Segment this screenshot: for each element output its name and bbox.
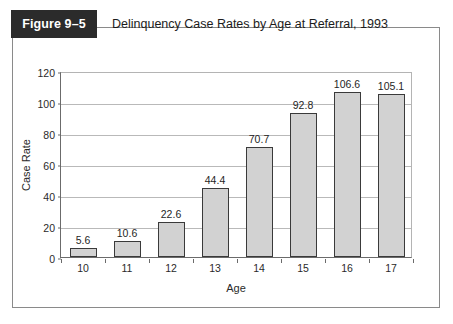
bar: 5.610 xyxy=(70,248,97,257)
chart-plot-area: 0204060801001205.61010.61122.61244.41370… xyxy=(60,72,412,258)
y-axis-tick-mark xyxy=(58,197,62,198)
bar-value-label: 70.7 xyxy=(249,133,269,145)
x-axis-tick-mark xyxy=(237,259,238,263)
y-axis-tick-label: 80 xyxy=(43,129,55,141)
y-axis-tick-label: 40 xyxy=(43,191,55,203)
x-axis-tick-mark xyxy=(149,259,150,263)
bar: 70.714 xyxy=(246,147,273,257)
y-axis-tick-label: 0 xyxy=(49,253,55,265)
y-axis-tick-mark xyxy=(58,73,62,74)
y-axis-tick-mark xyxy=(58,135,62,136)
bar: 22.612 xyxy=(158,222,185,257)
x-axis-tick-mark xyxy=(281,259,282,263)
x-axis-tick-label: 14 xyxy=(253,262,265,274)
x-axis-tick-mark xyxy=(325,259,326,263)
figure-title: Delinquency Case Rates by Age at Referra… xyxy=(112,17,388,31)
bar-value-label: 106.6 xyxy=(334,78,360,90)
bar-value-label: 92.8 xyxy=(293,99,313,111)
y-axis-tick-label: 100 xyxy=(37,98,55,110)
bar-value-label: 105.1 xyxy=(378,80,404,92)
y-axis-tick-label: 60 xyxy=(43,160,55,172)
x-axis-tick-mark xyxy=(413,259,414,263)
x-axis-tick-label: 13 xyxy=(209,262,221,274)
x-axis-tick-mark xyxy=(369,259,370,263)
y-axis-tick-label: 120 xyxy=(37,67,55,79)
y-axis-tick-mark xyxy=(58,228,62,229)
x-axis-tick-mark xyxy=(61,259,62,263)
x-axis-tick-label: 12 xyxy=(165,262,177,274)
x-axis-tick-label: 16 xyxy=(341,262,353,274)
bar: 44.413 xyxy=(202,188,229,257)
y-axis-tick-mark xyxy=(58,104,62,105)
bar-value-label: 44.4 xyxy=(205,174,225,186)
x-axis-tick-label: 15 xyxy=(297,262,309,274)
figure-number-badge: Figure 9–5 xyxy=(11,10,97,38)
bar-value-label: 5.6 xyxy=(76,234,91,246)
x-axis-tick-label: 17 xyxy=(385,262,397,274)
figure-number-label: Figure 9–5 xyxy=(22,17,86,31)
bar: 105.117 xyxy=(378,94,405,257)
x-axis-tick-label: 11 xyxy=(122,262,133,274)
bar-value-label: 10.6 xyxy=(117,227,137,239)
bar-value-label: 22.6 xyxy=(161,208,181,220)
y-axis-tick-mark xyxy=(58,166,62,167)
bar: 106.616 xyxy=(334,92,361,257)
y-axis-tick-label: 20 xyxy=(43,222,55,234)
bar: 92.815 xyxy=(290,113,317,257)
y-axis-title: Case Rate xyxy=(20,139,32,191)
x-axis-title: Age xyxy=(226,282,246,294)
x-axis-tick-mark xyxy=(193,259,194,263)
x-axis-tick-label: 10 xyxy=(77,262,89,274)
bar: 10.611 xyxy=(114,241,141,257)
x-axis-tick-mark xyxy=(105,259,106,263)
